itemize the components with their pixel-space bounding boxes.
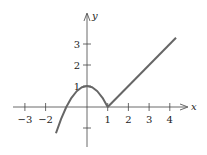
x-tick-label: 1 bbox=[105, 114, 111, 125]
curve bbox=[56, 86, 108, 133]
y-tick-label: 2 bbox=[74, 60, 80, 71]
x-tick-label: 3 bbox=[146, 114, 152, 125]
curve bbox=[108, 38, 176, 107]
graph: x y −3−21234 123 bbox=[0, 0, 207, 155]
y-axis-label: y bbox=[91, 10, 98, 21]
x-axis-label: x bbox=[191, 101, 197, 112]
x-axis bbox=[13, 104, 188, 110]
x-tick-label: 4 bbox=[167, 114, 173, 125]
x-tick-label: 2 bbox=[125, 114, 131, 125]
x-tick-label: −2 bbox=[38, 114, 53, 125]
y-ticks: 123 bbox=[74, 39, 91, 128]
y-axis bbox=[84, 13, 90, 147]
x-tick-label: −3 bbox=[18, 114, 33, 125]
x-ticks: −3−21234 bbox=[18, 103, 173, 125]
y-tick-label: 3 bbox=[74, 39, 80, 50]
